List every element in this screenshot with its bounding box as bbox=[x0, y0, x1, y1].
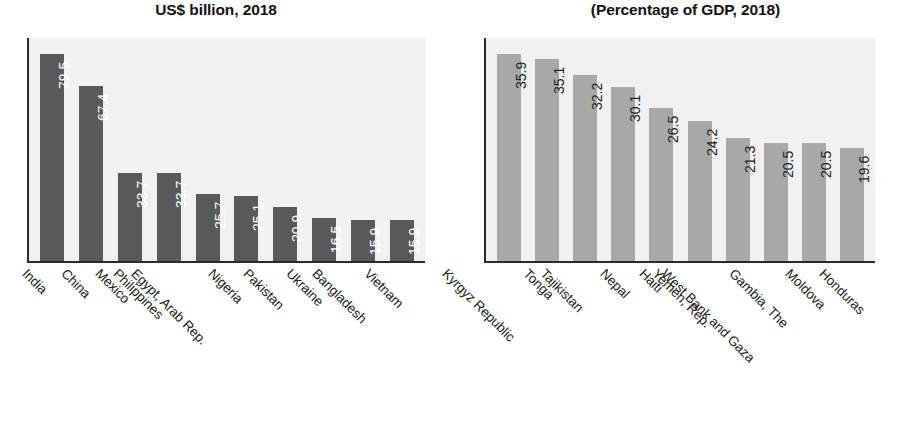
bar: 35.9 bbox=[497, 54, 521, 261]
bar-value-label: 16.5 bbox=[324, 189, 348, 253]
bar: 25.7 bbox=[196, 194, 220, 261]
bar-value-label: 79.5 bbox=[52, 25, 76, 89]
plot-area-right: 35.935.132.230.126.524.221.320.520.519.6 bbox=[484, 38, 875, 263]
bar: 21.3 bbox=[726, 138, 750, 261]
bar: 15.9 bbox=[390, 220, 414, 261]
category-label: India bbox=[19, 266, 50, 297]
bar-value-label: 32.2 bbox=[585, 46, 609, 110]
bar: 16.5 bbox=[312, 218, 336, 261]
bar: 79.5 bbox=[40, 54, 64, 261]
bar: 33.7 bbox=[157, 173, 181, 261]
category-label: Nepal bbox=[598, 266, 633, 301]
bar: 20.9 bbox=[273, 207, 297, 261]
plot-area-left: 79.567.433.733.725.725.120.916.515.915.9 bbox=[27, 38, 425, 263]
bar-value-label: 15.9 bbox=[363, 191, 387, 255]
bar: 33.7 bbox=[118, 173, 142, 261]
bar-group-right: 35.935.132.230.126.524.221.320.520.519.6 bbox=[486, 38, 875, 261]
category-label: Kyrgyz Republic bbox=[439, 266, 518, 345]
bar: 20.5 bbox=[764, 143, 788, 261]
bar: 67.4 bbox=[79, 86, 103, 261]
category-label: Nigeria bbox=[205, 266, 245, 306]
bar-value-label: 67.4 bbox=[91, 57, 115, 121]
bar-value-label: 30.1 bbox=[623, 58, 647, 122]
category-label: Vietnam bbox=[361, 266, 406, 311]
category-label: Pakistan bbox=[240, 266, 287, 313]
bar: 30.1 bbox=[611, 87, 635, 261]
bar: 35.1 bbox=[535, 59, 559, 261]
bar: 19.6 bbox=[840, 148, 864, 261]
bar-value-label: 26.5 bbox=[661, 79, 685, 143]
chart-panel-remittance-gdp: (Percentage of GDP, 2018) 35.935.132.230… bbox=[450, 0, 897, 434]
bar-value-label: 20.5 bbox=[776, 114, 800, 178]
bar: 26.5 bbox=[649, 108, 673, 261]
bar-value-label: 33.7 bbox=[169, 144, 193, 208]
bar-value-label: 33.7 bbox=[130, 144, 154, 208]
bar-group-left: 79.567.433.733.725.725.120.916.515.915.9 bbox=[29, 38, 425, 261]
bar-value-label: 21.3 bbox=[738, 109, 762, 173]
bar: 24.2 bbox=[688, 121, 712, 261]
bar-value-label: 35.1 bbox=[547, 30, 571, 94]
category-labels-left: IndiaChinaMexicoPhilippinesEgypt, Arab R… bbox=[0, 266, 450, 416]
chart-title-left: US$ billion, 2018 bbox=[0, 1, 450, 19]
bar: 25.1 bbox=[234, 196, 258, 261]
chart-title-right: (Percentage of GDP, 2018) bbox=[474, 1, 897, 19]
bar: 20.5 bbox=[802, 143, 826, 261]
bar-value-label: 25.1 bbox=[246, 167, 270, 231]
bar-value-label: 35.9 bbox=[509, 25, 533, 89]
bar-value-label: 20.5 bbox=[814, 114, 838, 178]
category-label: Honduras bbox=[817, 266, 868, 317]
category-labels-right: Kyrgyz RepublicTongaTajikistanNepalHaiti… bbox=[450, 266, 897, 416]
charts-container: US$ billion, 2018 79.567.433.733.725.725… bbox=[0, 0, 897, 434]
bar-value-label: 25.7 bbox=[208, 165, 232, 229]
bar-value-label: 20.9 bbox=[285, 178, 309, 242]
bar-value-label: 15.9 bbox=[402, 191, 426, 255]
bar: 32.2 bbox=[573, 75, 597, 261]
bar-value-label: 19.6 bbox=[852, 119, 876, 183]
chart-panel-remittance-usd: US$ billion, 2018 79.567.433.733.725.725… bbox=[0, 0, 450, 434]
category-label: China bbox=[58, 266, 93, 301]
bar-value-label: 24.2 bbox=[700, 92, 724, 156]
bar: 15.9 bbox=[351, 220, 375, 261]
